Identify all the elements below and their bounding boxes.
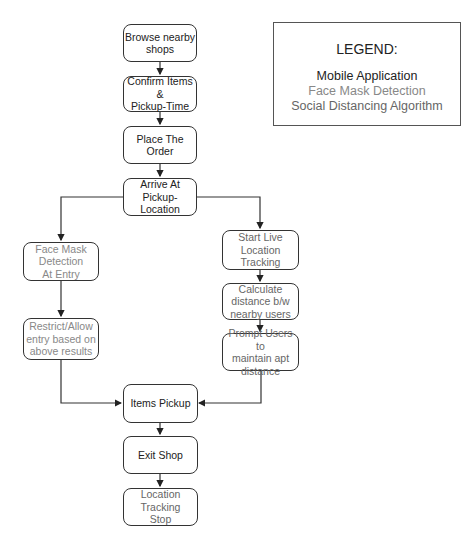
legend-item-social-distancing: Social Distancing Algorithm (274, 99, 460, 114)
node-calculate-distance: Calculate distance b/w nearby users (222, 283, 299, 320)
node-face-mask-detection: Face Mask Detection At Entry (23, 242, 99, 281)
node-restrict-allow: Restrict/Allow entry based on above resu… (23, 318, 99, 360)
node-start-tracking: Start Live Location Tracking (222, 230, 299, 270)
node-arrive-pickup: Arrive At Pickup- Location (123, 178, 197, 216)
node-browse-shops: Browse nearby shops (123, 24, 197, 62)
legend-item-face-mask: Face Mask Detection (274, 84, 460, 99)
node-prompt-users: Prompt Users to maintain apt distance (222, 333, 299, 371)
node-exit-shop: Exit Shop (123, 436, 198, 474)
legend-title: LEGEND: (274, 41, 460, 57)
node-items-pickup: Items Pickup (123, 384, 198, 423)
legend-box: LEGEND: Mobile Application Face Mask Det… (273, 22, 461, 126)
node-tracking-stop: Location Tracking Stop (123, 488, 198, 526)
legend-item-mobile: Mobile Application (274, 69, 460, 84)
node-confirm-items: Confirm Items & Pickup-Time (123, 76, 197, 112)
node-place-order: Place The Order (123, 126, 197, 164)
